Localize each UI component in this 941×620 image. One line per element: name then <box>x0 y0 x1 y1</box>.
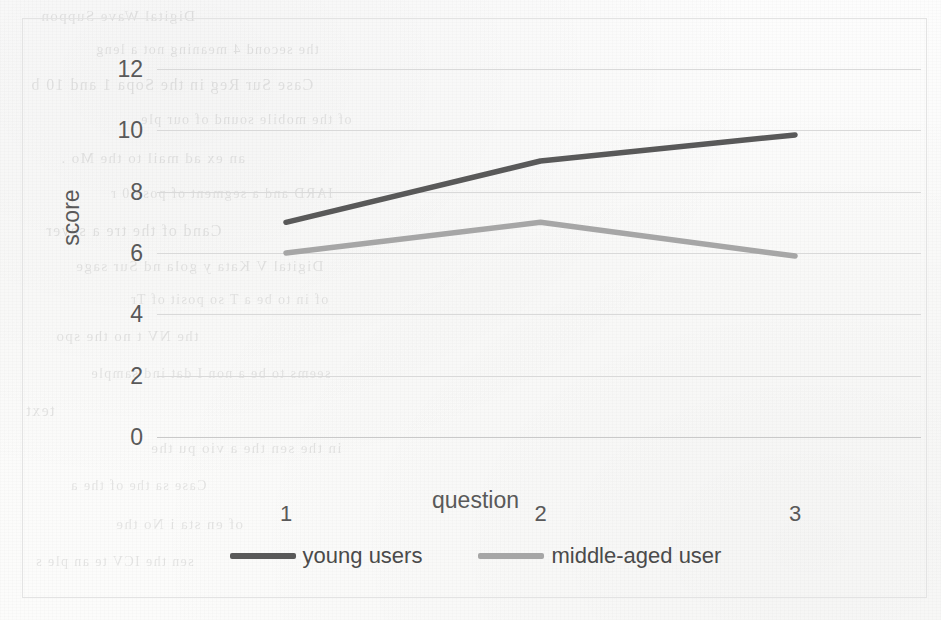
chart-frame: 024681012123 score question young usersm… <box>22 18 927 598</box>
legend-swatch-icon-0 <box>230 553 296 559</box>
y-tick-label-8: 8 <box>39 180 143 203</box>
legend-item-0[interactable]: young users <box>230 543 423 569</box>
legend-swatch-icon-1 <box>478 553 544 559</box>
y-tick-label-12: 12 <box>39 58 143 81</box>
series-lines <box>157 69 921 437</box>
series-line-0 <box>286 135 795 222</box>
plot-area: 024681012123 <box>157 69 921 437</box>
series-line-1 <box>286 222 795 256</box>
legend-item-1[interactable]: middle-aged user <box>478 543 721 569</box>
y-tick-label-10: 10 <box>39 119 143 142</box>
y-tick-label-0: 0 <box>39 426 143 449</box>
legend-label-1: middle-aged user <box>551 543 721 569</box>
gridline-y-0 <box>157 437 921 438</box>
y-tick-label-4: 4 <box>39 303 143 326</box>
x-axis-title: question <box>23 487 928 514</box>
y-tick-label-6: 6 <box>39 242 143 265</box>
y-axis-title: score <box>58 162 85 274</box>
y-tick-label-2: 2 <box>39 364 143 387</box>
legend-label-0: young users <box>303 543 423 569</box>
chart-legend: young usersmiddle-aged user <box>23 543 928 569</box>
